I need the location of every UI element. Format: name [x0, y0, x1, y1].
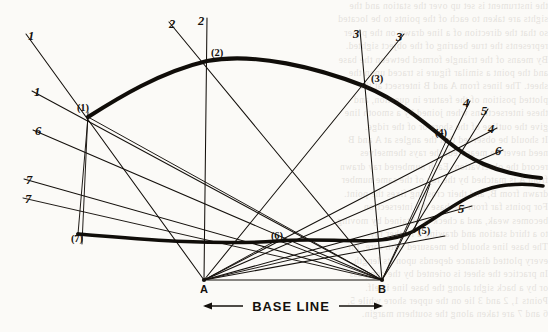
ray-label-1-upper: 1: [28, 29, 34, 43]
ray-label-2-left: 2: [168, 17, 175, 31]
ray-label-3-right: 3: [395, 30, 402, 44]
diagram-canvas: the instrument is set up over the statio…: [0, 0, 548, 332]
tie-node4-to-b: [382, 139, 447, 280]
station-mark-a: [202, 278, 206, 282]
node-mark-2: [205, 59, 209, 63]
base-line-label: BASE LINE: [252, 299, 329, 314]
node-label-3: (3): [371, 73, 384, 85]
tie-node1-to-b: [88, 117, 382, 280]
station-label-a: A: [200, 283, 208, 295]
ray-label-6-right: 6: [495, 144, 502, 158]
ray-label-4-upper: 4: [462, 96, 469, 110]
node-mark-4: [445, 139, 449, 143]
node-label-7: (7): [71, 233, 84, 245]
ray-label-7-upper: 7: [26, 173, 33, 187]
ray-label-6-left: 6: [35, 124, 42, 138]
station-mark-b: [380, 278, 384, 282]
ray-a-4: [204, 128, 497, 280]
ray-b-4: [382, 101, 470, 280]
ray-label-4-lower: 4: [487, 122, 494, 136]
node-label-4: (4): [435, 127, 448, 139]
ray-label-5-upper: 5: [481, 104, 487, 118]
node-mark-3: [362, 84, 366, 88]
node-mark-5: [412, 229, 416, 233]
ray-label-3-left: 3: [352, 27, 359, 41]
ray-label-5-lower: 5: [458, 202, 464, 216]
node-label-2: (2): [211, 47, 224, 59]
tie-node6-to-a: [204, 240, 277, 280]
ray-b-7: [24, 179, 382, 280]
dim-arrow-right-head: [374, 303, 383, 310]
station-label-b: B: [378, 283, 386, 295]
node-label-1: (1): [77, 102, 90, 114]
node-label-5: (5): [418, 225, 431, 237]
dim-arrow-left-head: [203, 303, 212, 310]
ray-label-1-lower: 1: [34, 85, 40, 99]
ray-label-7-lower: 7: [25, 192, 32, 206]
triangulation-plate: 1 1 2 2 3 3 4 5 4 6 5 6 7 7 (1) (2) (3) …: [0, 0, 548, 332]
ray-label-2-right: 2: [197, 14, 204, 28]
upper-shore-curve: [88, 58, 541, 178]
node-mark-1: [86, 115, 90, 119]
node-label-6: (6): [271, 230, 284, 242]
